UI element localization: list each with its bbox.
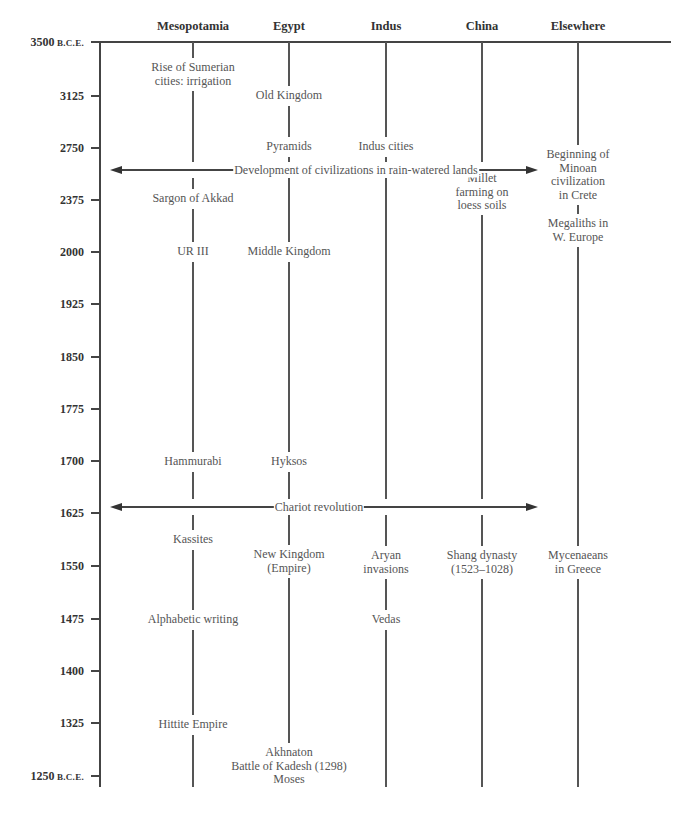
column-line-indus [385, 630, 387, 787]
axis-tick-label: 1400 [60, 664, 84, 679]
column-line-mesopotamia [192, 515, 194, 530]
column-header-china: China [466, 19, 499, 34]
axis-tick [91, 251, 100, 253]
column-line-elsewhere [577, 579, 579, 788]
event-mesopotamia: Sargon of Akkad [152, 192, 233, 206]
column-line-indus [385, 515, 387, 546]
event-egypt: Hyksos [271, 455, 307, 469]
axis-tick-label: 2750 [60, 141, 84, 156]
axis-tick-label: 1625 [60, 506, 84, 521]
event-mesopotamia: Hammurabi [164, 455, 221, 469]
axis-tick-label: 1475 [60, 612, 84, 627]
column-line-mesopotamia [192, 472, 194, 499]
arrow-left-icon [110, 166, 122, 174]
axis-tick [91, 512, 100, 514]
arrow-right-icon [526, 503, 538, 511]
tick-year: 2750 [60, 141, 84, 155]
column-header-mesopotamia: Mesopotamia [157, 19, 229, 34]
column-line-mesopotamia [192, 178, 194, 189]
column-line-indus [385, 579, 387, 611]
column-header-elsewhere: Elsewhere [551, 19, 606, 34]
axis-tick-label: 3125 [60, 89, 84, 104]
tick-year: 1850 [60, 350, 84, 364]
column-line-indus [385, 157, 387, 162]
column-line-egypt [288, 262, 290, 453]
column-line-china [481, 42, 483, 162]
event-mesopotamia: Rise of Sumeriancities: irrigation [151, 61, 234, 88]
axis-tick [91, 565, 100, 567]
column-line-egypt [288, 42, 290, 86]
column-line-china [481, 215, 483, 499]
axis-tick-label: 1550 [60, 559, 84, 574]
event-egypt: Pyramids [266, 140, 311, 154]
column-header-egypt: Egypt [273, 19, 305, 34]
tick-year: 1625 [60, 506, 84, 520]
axis-tick-label: 1775 [60, 402, 84, 417]
tick-year: 1400 [60, 664, 84, 678]
column-line-china [481, 579, 483, 788]
event-elsewhere: Beginning ofMinoancivilizationin Crete [547, 148, 610, 202]
axis-tick-label: 1925 [60, 297, 84, 312]
tick-year: 1250 [30, 769, 54, 783]
tick-year: 1475 [60, 612, 84, 626]
event-mesopotamia: Kassites [173, 533, 213, 547]
axis-tick [91, 147, 100, 149]
event-elsewhere: Mycenaeansin Greece [548, 549, 608, 576]
column-line-indus [385, 42, 387, 137]
event-indus: Vedas [372, 613, 401, 627]
axis-tick-label: 2000 [60, 245, 84, 260]
column-line-elsewhere [577, 205, 579, 214]
tick-year: 1700 [60, 454, 84, 468]
event-elsewhere: Megaliths inW. Europe [548, 217, 608, 244]
event-egypt: Middle Kingdom [248, 245, 331, 259]
axis-tick [91, 41, 100, 43]
event-china: Milletfarming onloess soils [456, 172, 509, 213]
event-mesopotamia: UR III [177, 245, 209, 259]
column-line-mesopotamia [192, 42, 194, 58]
column-line-mesopotamia [192, 630, 194, 716]
span-event-label: Chariot revolution [274, 500, 364, 515]
event-egypt: Old Kingdom [256, 89, 322, 103]
event-egypt: AkhnatonBattle of Kadesh (1298)Moses [231, 746, 347, 787]
axis-tick [91, 670, 100, 672]
tick-year: 1775 [60, 402, 84, 416]
column-line-egypt [288, 515, 290, 545]
column-line-mesopotamia [192, 209, 194, 243]
tick-era-suffix: B.C.E. [54, 772, 84, 782]
axis-tick-label: 1250 B.C.E. [30, 769, 84, 784]
column-line-elsewhere [577, 42, 579, 145]
column-line-egypt [288, 472, 290, 499]
tick-year: 1325 [60, 716, 84, 730]
event-indus: Aryaninvasions [363, 549, 408, 576]
tick-era-suffix: B.C.E. [54, 38, 84, 48]
column-header-indus: Indus [371, 19, 402, 34]
column-line-mesopotamia [192, 735, 194, 787]
axis-tick-label: 3500 B.C.E. [30, 35, 84, 50]
event-mesopotamia: Alphabetic writing [148, 613, 238, 627]
column-line-indus [385, 178, 387, 499]
axis-tick [91, 356, 100, 358]
tick-year: 1550 [60, 559, 84, 573]
column-line-egypt [288, 178, 290, 242]
column-line-china [481, 515, 483, 546]
axis-tick [91, 199, 100, 201]
axis-tick-label: 2375 [60, 193, 84, 208]
tick-year: 1925 [60, 297, 84, 311]
axis-tick [91, 303, 100, 305]
axis-tick [91, 408, 100, 410]
tick-year: 2375 [60, 193, 84, 207]
column-line-mesopotamia [192, 550, 194, 611]
tick-year: 2000 [60, 245, 84, 259]
axis-tick [91, 95, 100, 97]
tick-year: 3500 [30, 35, 54, 49]
column-line-mesopotamia [192, 262, 194, 453]
axis-tick-label: 1700 [60, 454, 84, 469]
event-egypt: New Kingdom(Empire) [254, 548, 325, 575]
event-mesopotamia: Hittite Empire [159, 718, 228, 732]
column-line-egypt [288, 157, 290, 162]
axis-tick [91, 722, 100, 724]
span-event-label: Development of civilizations in rain-wat… [233, 163, 479, 178]
column-line-elsewhere [577, 247, 579, 546]
arrow-right-icon [526, 166, 538, 174]
axis-tick-label: 1325 [60, 716, 84, 731]
